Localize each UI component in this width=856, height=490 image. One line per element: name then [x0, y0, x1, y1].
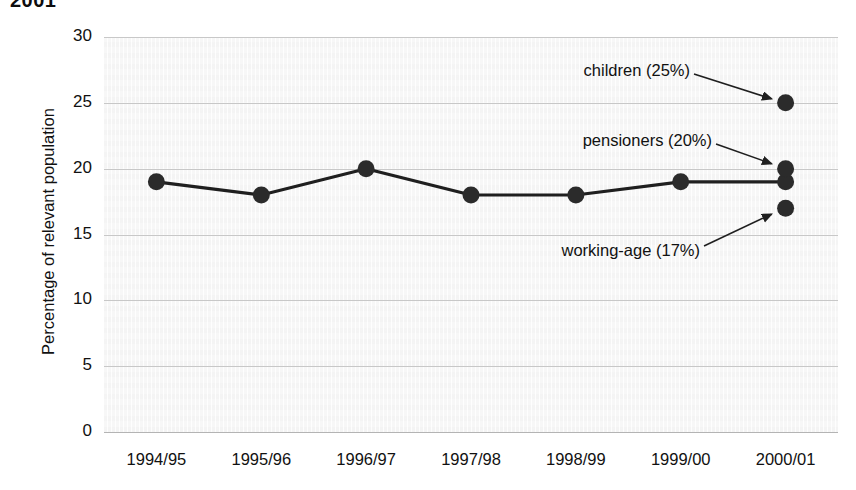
data-point-1995-96[interactable]	[253, 187, 270, 204]
data-point-1998-99[interactable]	[567, 187, 584, 204]
data-point-1996-97[interactable]	[358, 160, 375, 177]
data-point-children[interactable]	[777, 94, 794, 111]
pensioners-annotation-arrow	[716, 144, 772, 164]
data-point-working-age[interactable]	[777, 200, 794, 217]
working-age-annotation-arrow	[704, 214, 772, 246]
children-annotation-arrow	[694, 74, 772, 99]
data-point-1994-95[interactable]	[148, 173, 165, 190]
annotation-arrows	[694, 74, 772, 246]
data-point-1999-00[interactable]	[672, 173, 689, 190]
series-layer	[0, 0, 856, 490]
line-chart-figure: Percentage of relevant population 051015…	[0, 0, 856, 490]
extra-data-point-markers	[777, 94, 794, 216]
working-age-annotation: working-age (17%)	[562, 241, 700, 260]
children-annotation: children (25%)	[584, 61, 690, 80]
pensioners-annotation: pensioners (20%)	[583, 131, 712, 150]
data-point-1997-98[interactable]	[463, 187, 480, 204]
data-point-pensioners[interactable]	[777, 160, 794, 177]
